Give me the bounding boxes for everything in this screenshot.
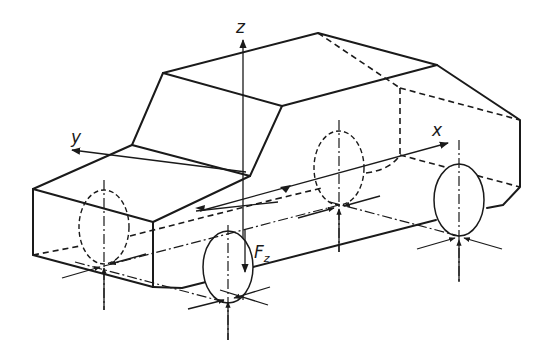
fz-subscript: z [263,252,270,265]
contact-forces-rear-right [417,238,502,282]
side-sill [253,220,436,267]
windshield-left-pillar [132,73,163,145]
hood-right-edge [153,176,250,222]
hidden-roof-edge [318,33,400,88]
front-bottom-edge [33,255,153,287]
x-axis-label: x [431,120,443,140]
sill-front [153,281,210,288]
hidden-rear-top-edge [400,88,520,120]
wheel-centerlines [75,120,459,340]
hood-front-edge [33,189,153,222]
vehicle-diagram: z y x Fz [0,0,549,357]
hidden-front-bottom-edge [33,246,80,255]
y-axis-label: y [70,127,82,147]
fz-symbol: F [254,242,264,262]
roof-front-edge [163,73,282,106]
car-body [33,33,520,288]
x-axis [200,143,448,211]
windshield-right-pillar [250,106,282,176]
z-axis-label: z [235,17,246,37]
fz-label: Fz [254,242,270,265]
hood-rear-edge [132,145,250,176]
roof-side-edge [282,65,437,106]
